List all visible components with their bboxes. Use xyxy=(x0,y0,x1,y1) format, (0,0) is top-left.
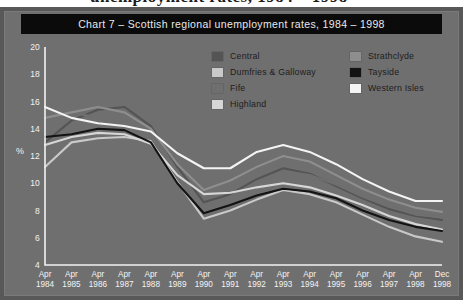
x-tick-year: 1985 xyxy=(62,280,80,289)
y-tick-label: 20 xyxy=(28,42,40,52)
x-tick-label: Apr1997 xyxy=(376,270,402,290)
legend-swatch-fife xyxy=(212,84,223,93)
x-tick-year: 1994 xyxy=(301,280,319,289)
legend-spacer xyxy=(350,96,444,112)
y-tick-label: 14 xyxy=(28,124,40,134)
legend-item-dumfries-galloway: Dumfries & Galloway xyxy=(212,64,350,80)
x-tick-month: Apr xyxy=(65,270,78,279)
legend-item-tayside: Tayside xyxy=(350,64,444,80)
legend-label-tayside: Tayside xyxy=(368,67,399,77)
x-tick-month: Apr xyxy=(277,270,290,279)
legend-item-western-isles: Western Isles xyxy=(350,80,444,96)
legend-swatch-central xyxy=(212,52,223,61)
x-tick-month: Apr xyxy=(39,270,52,279)
series-line-tayside xyxy=(45,129,442,231)
x-tick-label: Apr1994 xyxy=(297,270,323,290)
x-tick-label: Apr1992 xyxy=(244,270,270,290)
y-axis-label: % xyxy=(16,146,24,156)
legend-label-fife: Fife xyxy=(230,83,245,93)
plot-area xyxy=(0,0,463,300)
x-tick-month: Apr xyxy=(330,270,343,279)
x-tick-month: Apr xyxy=(144,270,157,279)
legend-swatch-tayside xyxy=(350,68,361,77)
chart-legend: CentralStrathclydeDumfries & GallowayTay… xyxy=(212,48,444,112)
legend-swatch-highland xyxy=(212,100,223,109)
y-tick-label: 8 xyxy=(28,206,40,216)
x-tick-label: Apr1993 xyxy=(270,270,296,290)
legend-swatch-strathclyde xyxy=(350,52,361,61)
x-tick-label: Apr1984 xyxy=(32,270,58,290)
legend-label-strathclyde: Strathclyde xyxy=(368,51,414,61)
x-tick-year: 1990 xyxy=(195,280,213,289)
screenshot-root: unemployment rates, 1984 – 1998 Chart 7 … xyxy=(0,0,463,300)
x-tick-year: 1996 xyxy=(353,280,371,289)
x-tick-year: 1998 xyxy=(406,280,424,289)
x-tick-year: 1984 xyxy=(36,280,54,289)
x-tick-label: Dec1998 xyxy=(429,270,455,290)
x-tick-month: Apr xyxy=(224,270,237,279)
y-tick-label: 18 xyxy=(28,69,40,79)
plot-svg xyxy=(0,0,463,300)
x-tick-label: Apr1995 xyxy=(323,270,349,290)
x-tick-month: Apr xyxy=(171,270,184,279)
legend-item-highland: Highland xyxy=(212,96,350,112)
y-tick-label: 4 xyxy=(28,260,40,270)
x-tick-year: 1991 xyxy=(221,280,239,289)
x-tick-month: Apr xyxy=(92,270,105,279)
x-tick-year: 1995 xyxy=(327,280,345,289)
x-tick-label: Apr1985 xyxy=(58,270,84,290)
x-tick-year: 1993 xyxy=(274,280,292,289)
y-tick-label: 12 xyxy=(28,151,40,161)
x-tick-month: Apr xyxy=(118,270,131,279)
x-tick-month: Apr xyxy=(197,270,210,279)
x-tick-year: 1986 xyxy=(89,280,107,289)
legend-swatch-dumfries-galloway xyxy=(212,68,223,77)
x-tick-label: Apr1989 xyxy=(164,270,190,290)
legend-swatch-western-isles xyxy=(350,84,361,93)
x-tick-month: Apr xyxy=(303,270,316,279)
x-tick-label: Apr1998 xyxy=(403,270,429,290)
x-tick-label: Apr1990 xyxy=(191,270,217,290)
series-layer xyxy=(45,107,442,242)
x-tick-label: Apr1988 xyxy=(138,270,164,290)
legend-item-strathclyde: Strathclyde xyxy=(350,48,444,64)
x-tick-month: Dec xyxy=(435,270,450,279)
x-tick-label: Apr1987 xyxy=(111,270,137,290)
x-tick-label: Apr1991 xyxy=(217,270,243,290)
series-line-highland xyxy=(45,133,442,230)
y-tick-label: 10 xyxy=(28,178,40,188)
x-tick-month: Apr xyxy=(356,270,369,279)
x-tick-year: 1988 xyxy=(142,280,160,289)
y-tick-label: 16 xyxy=(28,97,40,107)
x-tick-year: 1998 xyxy=(433,280,451,289)
x-tick-month: Apr xyxy=(250,270,263,279)
legend-label-dumfries-galloway: Dumfries & Galloway xyxy=(230,67,316,77)
x-tick-month: Apr xyxy=(409,270,422,279)
legend-label-western-isles: Western Isles xyxy=(368,83,424,93)
x-tick-year: 1992 xyxy=(248,280,266,289)
legend-label-central: Central xyxy=(230,51,260,61)
x-tick-year: 1989 xyxy=(168,280,186,289)
y-tick-label: 6 xyxy=(28,233,40,243)
x-tick-month: Apr xyxy=(383,270,396,279)
x-tick-label: Apr1996 xyxy=(350,270,376,290)
legend-label-highland: Highland xyxy=(230,99,266,109)
legend-item-central: Central xyxy=(212,48,350,64)
x-tick-year: 1987 xyxy=(115,280,133,289)
x-tick-label: Apr1986 xyxy=(85,270,111,290)
legend-item-fife: Fife xyxy=(212,80,350,96)
x-tick-year: 1997 xyxy=(380,280,398,289)
